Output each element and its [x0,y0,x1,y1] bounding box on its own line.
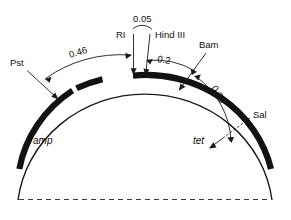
bam-arrowhead [179,83,186,90]
label-ri: RI [116,29,126,40]
arrowhead-046-right [125,53,132,59]
label-distance-005: 0.05 [133,13,152,24]
distance-arc-005 [133,25,152,29]
plasmid-diagram: Pst RI Hind III Bam Sal 0.46 0.05 0.2 0.… [0,0,291,220]
tet-gene-arc [133,75,271,169]
distance-arc-02 [147,60,195,71]
pst-leader-line [27,71,57,99]
arrowhead-035-bottom [227,137,234,143]
label-sal: Sal [253,109,267,120]
distance-arc-046 [45,55,130,79]
label-distance-02: 0.2 [157,53,172,66]
amp-gene-arc-upper [77,79,103,88]
label-bam: Bam [199,39,219,50]
label-pst: Pst [10,57,24,68]
plasmid-map-figure: Pst RI Hind III Bam Sal 0.46 0.05 0.2 0.… [0,0,291,220]
arrowhead-046-left [45,77,52,83]
label-hind3: Hind III [155,29,185,40]
sal-leader-line [223,118,250,138]
label-gene-amp: amp [33,135,53,146]
label-gene-tet: tet [193,135,205,146]
amp-gene-arc [19,91,72,170]
label-distance-046: 0.46 [68,44,89,60]
hind3-leader-line [146,34,150,72]
